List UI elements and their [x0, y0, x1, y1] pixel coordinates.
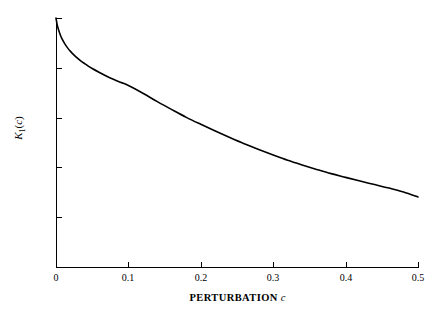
y-axis-title-close-paren: ): [12, 116, 24, 120]
y-axis-title-variable: c: [12, 120, 24, 125]
series-line-k1: [56, 18, 418, 197]
figure-chart-k1-vs-perturbation: 00.10.20.30.40.5 00.20.40.60.81.0 PERTUR…: [0, 0, 443, 319]
y-axis-title-open-paren: (: [12, 125, 24, 129]
y-axis-title-letter: K: [12, 132, 24, 139]
x-axis-title-main: PERTURBATION: [190, 292, 278, 303]
y-axis-title-subscript: 1: [18, 128, 27, 132]
y-axis-title: K1(c): [12, 116, 27, 140]
data-curve-svg: [0, 0, 443, 319]
x-axis-title: PERTURBATION c: [56, 292, 419, 303]
x-axis-title-variable: c: [281, 292, 286, 303]
